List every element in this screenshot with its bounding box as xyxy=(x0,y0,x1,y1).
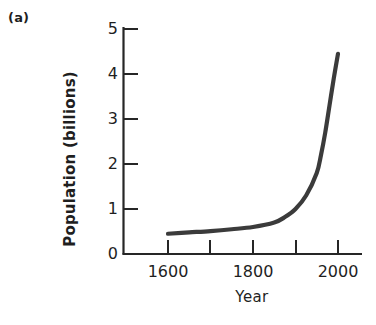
population-curve xyxy=(168,54,338,234)
plot-area xyxy=(0,0,376,325)
x-axis-ticks xyxy=(168,240,338,253)
y-axis-ticks xyxy=(124,29,138,209)
figure-panel-a: (a) Population (billions) Year 5 4 3 2 1… xyxy=(0,0,376,325)
